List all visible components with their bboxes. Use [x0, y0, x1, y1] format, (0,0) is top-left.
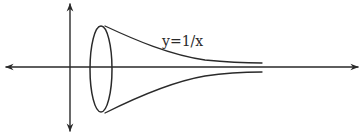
cross-section-ellipse	[90, 26, 112, 112]
gabriels-horn-diagram: y=1/x	[0, 0, 360, 133]
curve-label: y=1/x	[161, 33, 203, 49]
lower-curve	[105, 72, 262, 113]
